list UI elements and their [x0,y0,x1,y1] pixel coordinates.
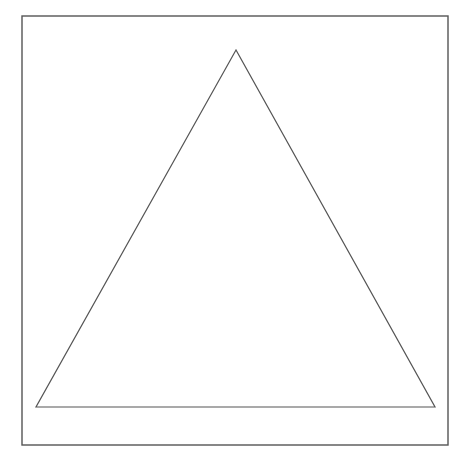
triangle-shape [36,50,435,407]
diagram-canvas [0,0,475,471]
square-frame [22,16,448,445]
